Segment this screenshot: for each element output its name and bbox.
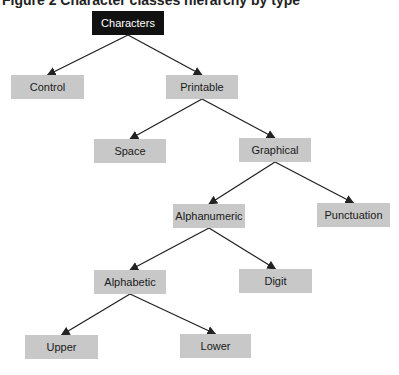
node-lower: Lower bbox=[180, 334, 251, 358]
edge-printable-graphical bbox=[202, 99, 275, 138]
node-upper: Upper bbox=[25, 335, 98, 359]
node-characters: Characters bbox=[92, 11, 164, 35]
node-graphical: Graphical bbox=[239, 138, 311, 162]
edge-printable-space bbox=[130, 99, 202, 139]
node-alphanumeric: Alphanumeric bbox=[173, 204, 245, 228]
edge-alphabetic-upper bbox=[62, 294, 131, 335]
node-alphabetic: Alphabetic bbox=[94, 270, 166, 294]
edge-alphabetic-lower bbox=[130, 294, 216, 334]
node-control: Control bbox=[11, 75, 84, 99]
node-digit: Digit bbox=[239, 269, 312, 293]
node-space: Space bbox=[94, 139, 166, 163]
edge-alphanumeric-digit bbox=[209, 228, 276, 269]
edge-graphical-punctuation bbox=[275, 162, 354, 203]
node-punctuation: Punctuation bbox=[317, 203, 390, 227]
edge-alphanumeric-alphabetic bbox=[130, 228, 209, 270]
edge-characters-printable bbox=[128, 35, 202, 75]
edge-graphical-alphanumeric bbox=[209, 162, 275, 204]
edge-characters-control bbox=[48, 35, 129, 75]
edge-layer bbox=[0, 0, 399, 375]
node-printable: Printable bbox=[166, 75, 238, 99]
